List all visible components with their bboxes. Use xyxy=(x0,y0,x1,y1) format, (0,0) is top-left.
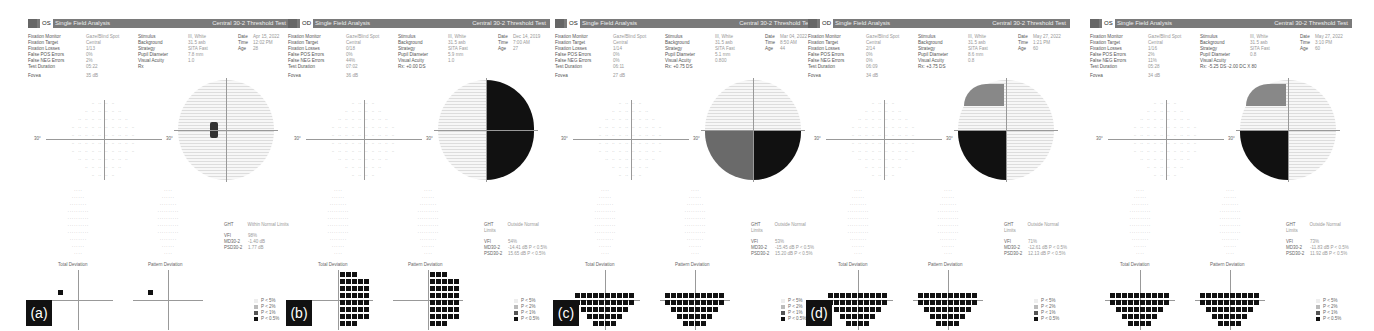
value-rx: Rx: -5.25 DS -2.00 DC X 80 xyxy=(1200,64,1257,70)
legend-label: P < 5% xyxy=(261,298,276,303)
deviation-row: · · · · xyxy=(818,251,898,258)
probability-square xyxy=(58,290,63,295)
label-fovea: Fovea xyxy=(1090,73,1126,79)
probability-square xyxy=(1206,293,1211,298)
value-test-duration: 06:11 xyxy=(613,64,646,70)
probability-square xyxy=(454,307,459,312)
threshold-value: ·· xyxy=(1140,156,1143,164)
label-age: Age xyxy=(1300,46,1310,52)
deviation-row: · · · · · · · · · · xyxy=(1100,230,1180,237)
threshold-value: ·· xyxy=(892,116,895,124)
probability-square xyxy=(1116,307,1121,312)
probability-square xyxy=(448,293,453,298)
eye-marker-icon xyxy=(28,19,37,28)
threshold-value: ·· xyxy=(892,172,895,180)
probability-square xyxy=(352,272,357,277)
threshold-value: ·· xyxy=(125,156,128,164)
threshold-value: ·· xyxy=(885,148,888,156)
deviation-row: · · · · xyxy=(298,251,378,258)
threshold-value: ·· xyxy=(1174,100,1177,108)
threshold-row: ············ xyxy=(48,164,158,172)
probability-square xyxy=(448,300,453,305)
deviation-row: · · · · · · xyxy=(1190,244,1270,251)
threshold-value: ·· xyxy=(885,100,888,108)
deviation-row: · · · · · · · · xyxy=(128,237,208,244)
legend-item: P < 0.5% xyxy=(1034,316,1059,322)
threshold-row: ············ xyxy=(308,164,418,172)
threshold-value: ·· xyxy=(78,148,81,156)
probability-square xyxy=(454,314,459,319)
threshold-value: ·· xyxy=(612,116,615,124)
threshold-value: ·· xyxy=(352,108,355,116)
deviation-row: · · · · · · xyxy=(38,195,118,202)
threshold-value: ·· xyxy=(912,124,915,132)
legend-swatch-icon xyxy=(514,305,518,309)
ght-label: GHT xyxy=(1286,222,1296,227)
ght-value: Within Normal Limits xyxy=(248,222,289,227)
threshold-value: ·· xyxy=(365,164,368,172)
probability-square xyxy=(1218,321,1223,326)
threshold-value: ·· xyxy=(645,108,648,116)
patient-labels: DateTimeAge xyxy=(1018,34,1028,52)
report-title: Single Field Analysis xyxy=(315,19,370,28)
threshold-row: ················ xyxy=(575,116,685,124)
threshold-value: ·· xyxy=(599,148,602,156)
threshold-value: ·· xyxy=(1154,156,1157,164)
threshold-value: ·· xyxy=(885,124,888,132)
pattern-deviation-label: Pattern Deviation xyxy=(675,262,710,267)
probability-square xyxy=(587,293,592,298)
probability-square xyxy=(599,307,604,312)
threshold-value: ·· xyxy=(659,140,662,148)
probability-square xyxy=(864,314,869,319)
deviation-row: · · · · · · · · · · xyxy=(908,223,988,230)
value-age: 28 xyxy=(253,46,279,52)
eye-marker-icon xyxy=(1090,19,1099,28)
stimulus-labels: StimulusBackgroundStrategyPupil Diameter… xyxy=(918,34,948,70)
probability-square xyxy=(870,293,875,298)
threshold-value: ·· xyxy=(358,156,361,164)
threshold-value: ·· xyxy=(118,108,121,116)
threshold-value: ·· xyxy=(1174,124,1177,132)
probability-square xyxy=(701,307,706,312)
axis-label-30-left: 30° xyxy=(561,136,568,141)
threshold-value: ·· xyxy=(112,140,115,148)
deviation-row: · · · · · · · · · · xyxy=(1190,209,1270,216)
probability-square xyxy=(683,321,688,326)
probability-square xyxy=(430,307,435,312)
probability-square xyxy=(876,293,881,298)
threshold-value: ·· xyxy=(858,116,861,124)
threshold-row: ················ xyxy=(1110,156,1220,164)
threshold-value: ·· xyxy=(898,164,901,172)
threshold-value: ·· xyxy=(378,116,381,124)
probability-square xyxy=(1146,314,1151,319)
eye-label: OD xyxy=(300,19,313,28)
probability-square xyxy=(148,290,153,295)
header-bar: OSSingle Field AnalysisCentral 30-2 Thre… xyxy=(555,19,817,28)
probability-square xyxy=(430,321,435,326)
probability-square xyxy=(442,300,447,305)
threshold-value: ·· xyxy=(892,100,895,108)
probability-square xyxy=(593,300,598,305)
probability-square xyxy=(436,272,441,277)
total-deviation-label: Total Deviation xyxy=(585,262,615,267)
probability-square xyxy=(1248,293,1253,298)
threshold-value: ·· xyxy=(1194,140,1197,148)
probability-square xyxy=(695,314,700,319)
deviation-row: · · · · xyxy=(388,188,468,195)
deviation-row: · · · · · · · · · · xyxy=(128,223,208,230)
probability-square xyxy=(671,307,676,312)
legend-swatch-icon xyxy=(1034,317,1038,321)
value-psd: 1.77 dB xyxy=(248,245,264,250)
threshold-row: ···················· xyxy=(828,124,938,132)
deviation-row: · · · · · · xyxy=(128,244,208,251)
probability-square xyxy=(358,286,363,291)
threshold-value: ·· xyxy=(1187,124,1190,132)
deviation-row: · · · · · · · · · · xyxy=(298,216,378,223)
probability-square xyxy=(1128,314,1133,319)
pattern-deviation-values: · · · ·· · · · · ·· · · · · · · ·· · · ·… xyxy=(1190,188,1270,258)
deviation-row: · · · · · · · · xyxy=(655,202,735,209)
probability-square xyxy=(719,300,724,305)
index-row-psd: PSD30-212.13 dB P < 0.5% xyxy=(1004,251,1070,257)
legend-label: P < 1% xyxy=(1041,310,1056,315)
pattern-deviation-probability-map xyxy=(388,272,468,330)
